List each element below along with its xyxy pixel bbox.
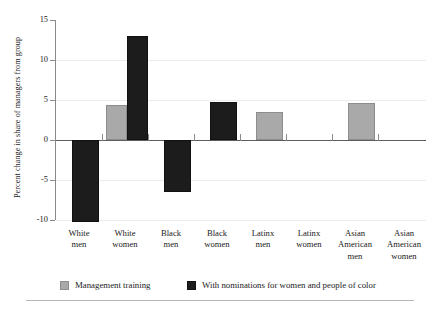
x-tick-6 (332, 134, 333, 141)
x-label-line: men (148, 239, 194, 250)
x-label-line: women (194, 239, 240, 250)
y-axis-title-container: Percent change in share of managers from… (0, 0, 26, 240)
legend-item-management-training: Management training (60, 278, 150, 292)
y-tick-label-5: 5 (18, 96, 48, 104)
y-tick-label-0: 0 (18, 136, 48, 144)
x-label-line: American (330, 239, 380, 250)
y-tick-label-minus10: -10 (18, 216, 48, 224)
x-label-black-men: Black men (148, 228, 194, 251)
x-tick-5 (286, 134, 287, 141)
legend-swatch-gray-icon (60, 281, 69, 290)
x-label-line: women (378, 251, 430, 262)
x-label-line: American (378, 239, 430, 250)
gridline-5 (56, 100, 426, 101)
bar-white-women-management-training (106, 105, 127, 140)
zero-line (56, 140, 426, 141)
gridline-minus5 (56, 180, 426, 181)
x-tick-3 (194, 134, 195, 141)
y-tick-mark-10 (50, 60, 55, 61)
x-tick-2 (148, 134, 149, 141)
bottom-divider (26, 300, 414, 301)
x-label-asian-american-men: Asian American men (330, 228, 380, 262)
y-tick-label-minus5: -5 (18, 176, 48, 184)
legend-item-nominations: With nominations for women and people of… (187, 278, 376, 292)
x-label-line: White (102, 228, 148, 239)
x-label-latinx-men: Latinx men (240, 228, 286, 251)
bar-black-women-nominations (210, 102, 237, 140)
x-label-line: men (56, 239, 102, 250)
x-label-black-women: Black women (194, 228, 240, 251)
bar-asian-american-men-management-training (348, 103, 375, 140)
y-tick-label-10: 10 (18, 56, 48, 64)
x-label-line: Asian (378, 228, 430, 239)
x-label-white-women: White women (102, 228, 148, 251)
x-label-line: women (286, 239, 332, 250)
x-tick-4 (240, 134, 241, 141)
x-label-line: men (330, 251, 380, 262)
x-label-line: women (102, 239, 148, 250)
x-label-line: men (240, 239, 286, 250)
gridline-minus10 (56, 220, 426, 221)
x-tick-7 (378, 134, 379, 141)
x-label-line: Latinx (286, 228, 332, 239)
bar-white-men-nominations (72, 140, 99, 222)
y-tick-mark-0 (50, 140, 55, 141)
x-label-line: Asian (330, 228, 380, 239)
bar-black-men-nominations (164, 140, 191, 192)
legend-swatch-black-icon (187, 281, 196, 290)
legend-label-management-training: Management training (75, 280, 150, 290)
y-tick-mark-minus10 (50, 220, 55, 221)
x-label-line: Black (148, 228, 194, 239)
gridline-10 (56, 60, 426, 61)
x-tick-1 (102, 134, 103, 141)
y-tick-label-15: 15 (18, 16, 48, 24)
y-tick-mark-minus5 (50, 180, 55, 181)
y-tick-mark-15 (50, 20, 55, 21)
x-label-latinx-women: Latinx women (286, 228, 332, 251)
y-tick-mark-5 (50, 100, 55, 101)
bar-white-women-nominations (127, 36, 148, 140)
bar-latinx-men-management-training (256, 112, 283, 140)
x-label-line: Black (194, 228, 240, 239)
x-label-line: Latinx (240, 228, 286, 239)
x-label-asian-american-women: Asian American women (378, 228, 430, 262)
y-axis-spine (55, 20, 56, 220)
x-label-line: White (56, 228, 102, 239)
chart-legend: Management training With nominations for… (56, 278, 426, 294)
chart-figure: Percent change in share of managers from… (0, 0, 439, 312)
x-label-white-men: White men (56, 228, 102, 251)
legend-label-nominations: With nominations for women and people of… (202, 280, 376, 290)
y-axis-title: Percent change in share of managers from… (13, 4, 22, 232)
